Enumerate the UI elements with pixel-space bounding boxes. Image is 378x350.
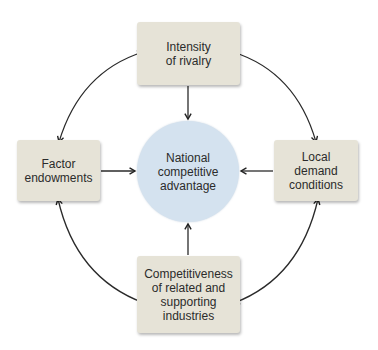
center-label: National competitive advantage	[158, 151, 219, 193]
node-related-supporting-industries: Competitiveness of related and supportin…	[137, 256, 240, 333]
arc-top-right	[233, 52, 316, 142]
node-factor-endowments: Factor endowments	[17, 140, 100, 201]
node-label: Competitiveness of related and supportin…	[144, 267, 233, 323]
node-label: Intensity of rivalry	[166, 40, 211, 68]
node-intensity-of-rivalry: Intensity of rivalry	[137, 22, 240, 85]
arc-right-bottom	[234, 199, 318, 303]
node-label: Local demand conditions	[289, 150, 343, 192]
arc-top-left	[59, 52, 143, 142]
center-national-competitive-advantage: National competitive advantage	[137, 121, 239, 222]
node-local-demand-conditions: Local demand conditions	[274, 140, 358, 201]
arc-left-bottom	[58, 199, 144, 303]
node-label: Factor endowments	[24, 157, 92, 185]
